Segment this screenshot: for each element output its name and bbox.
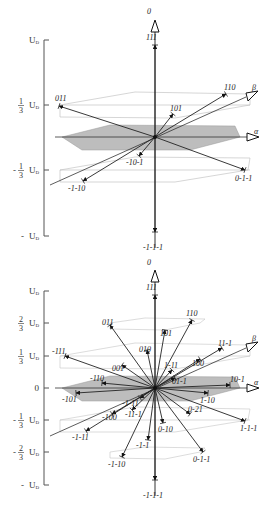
space-vector-diagrams: UDUD13UD13-UD- 0 α β 111-1-1-1011110101-… [0,0,275,512]
value-tick: UD [29,286,49,296]
tick-label: UD [29,480,40,490]
vector-label: -110 [90,374,104,383]
vector-label: -1-1-1 [143,243,163,252]
tick-label: UD [29,35,40,45]
beta-axis-label: β [251,83,256,92]
tick-sign: - [21,480,24,490]
tick-sign: - [21,231,24,241]
svg-text:1: 1 [19,412,23,421]
origin-point [153,386,157,390]
alpha-axis-label: α [254,378,259,387]
svg-text:2: 2 [19,444,23,453]
zero-axis-label: 0 [147,7,151,16]
alpha-beta-plane [62,125,240,150]
tick-label: UD [29,286,40,296]
tick-fraction: 13 [18,412,24,430]
vector-label: 011 [102,318,113,327]
vector-label: 10-1 [230,375,245,384]
svg-text:3: 3 [19,357,23,366]
value-tick: UD- [21,480,49,490]
tick-sign: - [13,447,16,457]
vector-label: 1-10 [200,396,215,405]
beta-axis-arrow-icon [246,342,258,352]
vector-label: -111 [52,347,65,356]
tick-fraction: 13 [18,162,24,180]
vector-label: 0-1-1 [193,455,210,464]
voltage-vector: 111 [146,33,158,137]
top-diagram: UDUD13UD13-UD- 0 α β 111-1-1-1011110101-… [13,7,259,252]
vector-label: 11-1 [218,339,232,348]
tick-sign: - [13,165,16,175]
tick-label: UD [29,100,40,110]
vector-label: 111 [146,283,157,292]
tick-label: UD [29,351,40,361]
tick-label: UD [29,231,40,241]
tick-sign: - [13,415,16,425]
tick-label: UD [29,318,40,328]
vector-label: 0-10 [158,425,173,434]
tick-label: UD [29,447,40,457]
vector-label: 0-1-1 [235,174,252,183]
vector-label: -1-10 [68,184,85,193]
vector-label: -100 [102,413,117,422]
vector-label: 01-1 [172,377,187,386]
tick-fraction: 13 [18,348,24,366]
bottom-diagram: UDUD23UD130UD13-UD23-UD- 0 α β 111-1-1-1… [13,258,259,500]
vector-label: 111 [146,33,157,42]
voltage-vector: -1-1-1 [143,137,163,252]
vector-label: -1-10 [108,460,125,469]
tick-fraction: 23 [18,315,24,333]
vector-label: 110 [224,83,235,92]
vector-label: -11-1 [125,410,142,419]
value-tick: UD [29,35,49,45]
svg-text:1: 1 [19,97,23,106]
svg-text:3: 3 [19,421,23,430]
vector-label: 1-11 [164,361,178,370]
vector-label: -101 [62,395,77,404]
vector-label: 1-1-1 [240,424,257,433]
vector-label: -1-1 [136,441,149,450]
tick-label: UD [29,165,40,175]
vector-label: -1-11 [72,433,89,442]
svg-text:3: 3 [19,171,23,180]
tick-label: 0 [35,383,40,393]
svg-text:3: 3 [19,106,23,115]
vector-label: 110 [186,309,197,318]
tick-fraction: 23 [18,444,24,462]
vector-label: 001 [112,364,124,373]
zero-axis-arrow-icon [151,20,159,32]
svg-text:1: 1 [19,162,23,171]
svg-text:3: 3 [19,324,23,333]
origin-point [153,135,157,139]
value-tick: 0 [35,383,50,393]
svg-text:2: 2 [19,315,23,324]
svg-text:1: 1 [19,348,23,357]
vector-label: 100 [192,359,204,368]
vector-label: 101 [160,329,172,338]
svg-text:3: 3 [19,453,23,462]
tick-label: UD [29,415,40,425]
vector-label: 010 [139,345,151,354]
vector-label: -10-1 [126,158,143,167]
beta-axis-label: β [251,334,256,343]
zero-axis-arrow-icon [151,270,159,282]
vector-label: 0-21 [188,405,203,414]
vector-label: 101 [170,104,182,113]
vector-label: -1-1-1 [143,491,163,500]
beta-axis-arrow-icon [246,91,258,101]
tick-fraction: 13 [18,97,24,115]
zero-axis-label: 0 [147,258,151,267]
alpha-axis-label: α [254,127,259,136]
value-tick: UD- [21,231,49,241]
vector-label: 011 [55,94,66,103]
